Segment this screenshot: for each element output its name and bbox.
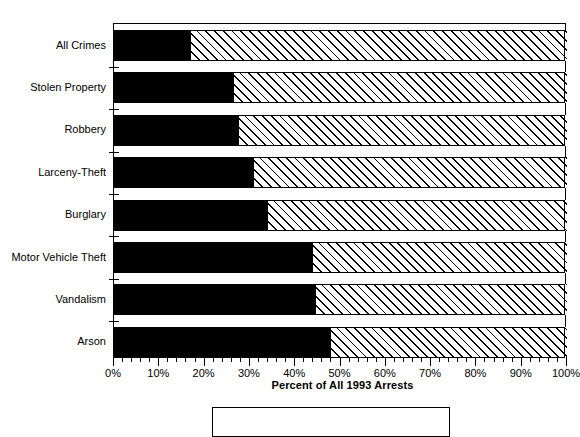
x-axis-tick-minor — [557, 357, 558, 362]
x-axis-tick-minor — [421, 357, 422, 362]
y-axis-label: Larceny-Theft — [38, 166, 106, 178]
x-axis-tick-major — [113, 357, 114, 366]
x-axis-tick-minor — [131, 357, 132, 362]
x-axis-tick-minor — [367, 357, 368, 362]
y-axis-tick — [109, 321, 119, 322]
bar-outline — [114, 157, 565, 188]
y-axis-tick — [109, 152, 119, 153]
x-axis-tick-minor — [122, 357, 123, 362]
x-axis-tick-minor — [213, 357, 214, 362]
bar-outline — [114, 200, 565, 231]
bar-outline — [114, 284, 565, 315]
x-axis-tick-minor — [503, 357, 504, 362]
x-axis-tick-minor — [539, 357, 540, 362]
x-axis: 0%10%20%30%40%50%60%70%80%90%100% — [113, 357, 566, 358]
x-axis-tick-minor — [258, 357, 259, 362]
bar-row — [114, 242, 565, 273]
bar-row — [114, 327, 565, 358]
x-axis-tick-major — [521, 357, 522, 366]
y-axis-tick — [109, 279, 119, 280]
x-axis-tick-major — [204, 357, 205, 366]
x-axis-tick-minor — [457, 357, 458, 362]
x-axis-tick-major — [566, 357, 567, 366]
bar-row — [114, 30, 565, 61]
x-axis-tick-minor — [231, 357, 232, 362]
bar-row — [114, 115, 565, 146]
x-axis-tick-minor — [548, 357, 549, 362]
y-axis-label: Burglary — [65, 208, 106, 220]
x-axis-tick-minor — [494, 357, 495, 362]
x-axis-tick-minor — [222, 357, 223, 362]
y-axis-label: Arson — [77, 335, 106, 347]
x-axis-tick-major — [340, 357, 341, 366]
x-axis-tick-major — [430, 357, 431, 366]
x-axis-tick-minor — [176, 357, 177, 362]
x-axis-tick-minor — [330, 357, 331, 362]
bar-row — [114, 72, 565, 103]
x-axis-tick-major — [249, 357, 250, 366]
x-axis-title-text: Percent of All 1993 Arrests — [272, 379, 414, 391]
x-axis-tick-minor — [376, 357, 377, 362]
x-axis-tick-minor — [484, 357, 485, 362]
y-axis-tick — [109, 67, 119, 68]
x-axis-tick-minor — [267, 357, 268, 362]
bar-row — [114, 200, 565, 231]
x-axis-tick-minor — [412, 357, 413, 362]
x-axis-tick-minor — [185, 357, 186, 362]
plot-area — [113, 23, 566, 357]
bar-outline — [114, 72, 565, 103]
bar-outline — [114, 242, 565, 273]
x-axis-tick-minor — [312, 357, 313, 362]
x-axis-tick-minor — [466, 357, 467, 362]
bar-outline — [114, 115, 565, 146]
y-axis-tick — [109, 109, 119, 110]
x-axis-tick-minor — [195, 357, 196, 362]
bar-row — [114, 284, 565, 315]
x-axis-tick-minor — [167, 357, 168, 362]
bar-row — [114, 157, 565, 188]
x-axis-title: Percent of All 1993 Arrests — [0, 379, 577, 391]
x-axis-tick-minor — [358, 357, 359, 362]
x-axis-tick-major — [294, 357, 295, 366]
x-axis-tick-minor — [530, 357, 531, 362]
x-axis-tick-minor — [448, 357, 449, 362]
x-axis-tick-minor — [439, 357, 440, 362]
y-axis-label: Motor Vehicle Theft — [11, 251, 106, 263]
y-axis-label: Robbery — [64, 123, 106, 135]
y-axis-label: Vandalism — [55, 293, 106, 305]
x-axis-tick-minor — [276, 357, 277, 362]
x-axis-tick-minor — [349, 357, 350, 362]
y-axis-label: Stolen Property — [30, 81, 106, 93]
x-axis-tick-minor — [303, 357, 304, 362]
x-axis-tick-minor — [512, 357, 513, 362]
x-axis-tick-minor — [140, 357, 141, 362]
x-axis-tick-major — [158, 357, 159, 366]
x-axis-tick-major — [385, 357, 386, 366]
y-axis-label: All Crimes — [56, 39, 106, 51]
y-axis-tick — [109, 236, 119, 237]
x-axis-tick-minor — [240, 357, 241, 362]
x-axis-tick-minor — [403, 357, 404, 362]
legend-box — [212, 407, 450, 437]
bar-outline — [114, 30, 565, 61]
y-axis-tick — [109, 194, 119, 195]
y-axis-category-labels: All CrimesStolen PropertyRobberyLarceny-… — [0, 23, 110, 357]
bar-outline — [114, 327, 565, 358]
x-axis-tick-minor — [394, 357, 395, 362]
x-axis-tick-minor — [149, 357, 150, 362]
x-axis-tick-minor — [321, 357, 322, 362]
x-axis-tick-minor — [285, 357, 286, 362]
x-axis-tick-major — [475, 357, 476, 366]
